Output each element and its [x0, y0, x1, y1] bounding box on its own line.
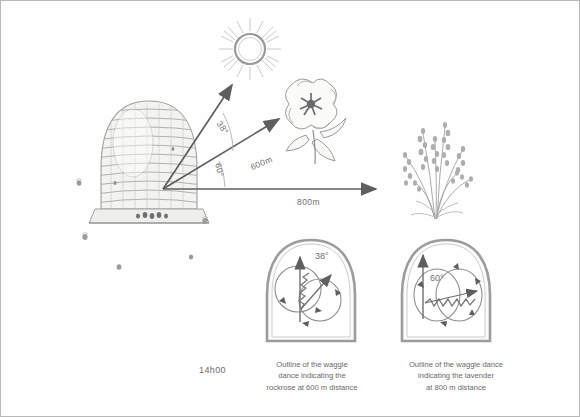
dance-lavender: 60° — [387, 237, 505, 349]
figure-frame: 38° 60° 600m 800m 14h00 38° Outline of t… — [0, 0, 580, 417]
direction-vectors — [1, 1, 580, 417]
distance-label-800m: 800m — [297, 197, 320, 207]
caption-line: indicating the lavender — [383, 370, 529, 381]
caption-line: at 800 m distance — [383, 382, 529, 393]
dance-angle-label-60: 60° — [430, 273, 444, 283]
caption-line: Outline of the waggle — [245, 359, 379, 370]
dance-angle-label-38: 38° — [315, 251, 329, 261]
caption-line: rockrose at 600 m distance — [245, 382, 379, 393]
caption-line: dance indicating the — [245, 370, 379, 381]
dance-rockrose: 38° — [253, 237, 369, 349]
time-label: 14h00 — [199, 365, 226, 375]
caption-line: Outline of the waggle dance — [383, 359, 529, 370]
caption-lavender: Outline of the waggle dance indicating t… — [383, 359, 529, 393]
caption-rockrose: Outline of the waggle dance indicating t… — [245, 359, 379, 393]
